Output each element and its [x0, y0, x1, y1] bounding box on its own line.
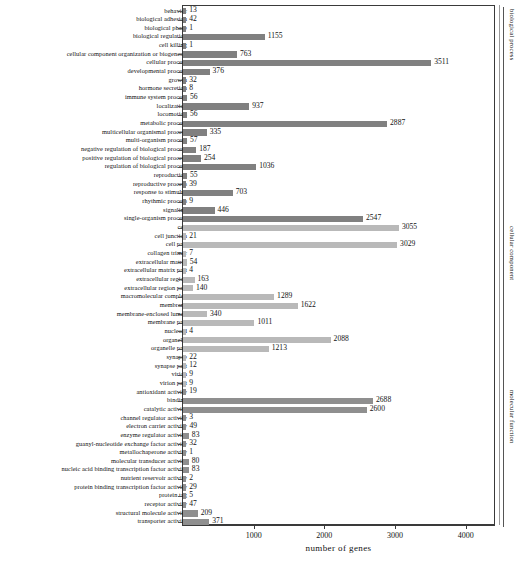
bar-value-label: 1 [189, 447, 193, 456]
bar-value-label: 83 [192, 430, 200, 439]
y-axis-tick [178, 54, 182, 55]
y-axis-tick [178, 453, 182, 454]
y-axis-tick [178, 46, 182, 47]
bar-value-label: 4 [189, 326, 193, 335]
bar-category-label: response to stimulus [7, 187, 187, 196]
bar-category-label: metallochaperone activity [7, 447, 187, 456]
bar-value-label: 1011 [257, 317, 272, 326]
bar-value-label: 55 [190, 170, 198, 179]
bar-category-label: extracellular region part [7, 283, 187, 292]
bar-value-label: 1 [189, 23, 193, 32]
bar-value-label: 187 [199, 144, 210, 153]
bar-value-label: 340 [210, 309, 221, 318]
bar-category-label: extracellular region [7, 274, 187, 283]
bar-category-label: transporter activity [7, 516, 187, 525]
y-axis-tick [178, 28, 182, 29]
bar-value-label: 1213 [272, 343, 287, 352]
group-label: molecular function [509, 390, 516, 525]
bar-category-label: virion [7, 369, 187, 378]
bar-category-label: cell part [7, 239, 187, 248]
y-axis-tick [178, 176, 182, 177]
bar-category-label: cellular component organization or bioge… [7, 49, 187, 58]
y-axis-tick [178, 323, 182, 324]
bar-category-label: extracellular matrix part [7, 265, 187, 274]
x-axis-tick-label: 1000 [246, 531, 262, 541]
x-axis-line [182, 525, 495, 526]
x-axis-tick-label: 3000 [387, 531, 403, 541]
y-axis-tick [178, 63, 182, 64]
x-axis-tick-label: 2000 [316, 531, 332, 541]
bar-category-label: locomotion [7, 109, 187, 118]
bar [183, 51, 237, 57]
bar-value-label: 1289 [277, 291, 292, 300]
y-axis-tick [178, 288, 182, 289]
bar-category-label: cell junction [7, 231, 187, 240]
bar-category-label: protein tag [7, 490, 187, 499]
y-axis-tick [178, 305, 182, 306]
bar-category-label: cellular process [7, 57, 187, 66]
bar-value-label: 763 [240, 49, 251, 58]
bar-value-label: 3055 [402, 222, 417, 231]
bar [183, 34, 265, 40]
bar-value-label: 56 [190, 92, 198, 101]
bar-category-label: synapse part [7, 361, 187, 370]
y-axis-tick [178, 184, 182, 185]
bar-category-label: membrane [7, 300, 187, 309]
bar-value-label: 9 [189, 378, 193, 387]
bar-value-label: 12 [189, 360, 197, 369]
bar [183, 242, 397, 248]
bar-value-label: 9 [189, 196, 193, 205]
y-axis-tick [178, 513, 182, 514]
y-axis-tick [178, 366, 182, 367]
bar-category-label: virion part [7, 378, 187, 387]
bar-value-label: 3511 [434, 57, 449, 66]
y-axis-tick [178, 279, 182, 280]
bar-category-label: macromolecular complex [7, 291, 187, 300]
y-axis-tick [178, 383, 182, 384]
bar-category-label: receptor activity [7, 499, 187, 508]
y-axis-tick [178, 479, 182, 480]
bar-value-label: 56 [190, 109, 198, 118]
bar-category-label: membrane part [7, 317, 187, 326]
bar-value-label: 371 [212, 516, 223, 525]
y-axis-tick [178, 340, 182, 341]
bar-category-label: rhythmic process [7, 196, 187, 205]
bar-value-label: 2600 [370, 404, 385, 413]
y-axis-tick [178, 505, 182, 506]
bar-category-label: single-organism process [7, 213, 187, 222]
bar-value-label: 937 [252, 101, 263, 110]
bar-value-label: 2088 [334, 334, 349, 343]
bar-value-label: 32 [189, 75, 197, 84]
y-axis-tick [178, 496, 182, 497]
bar-value-label: 2887 [390, 118, 405, 127]
y-axis-tick [178, 375, 182, 376]
bar [183, 407, 367, 413]
bar-value-label: 19 [189, 386, 197, 395]
bar-category-label: hormone secretion [7, 83, 187, 92]
bar-value-label: 32 [189, 438, 197, 447]
y-axis-tick [178, 236, 182, 237]
bar-category-label: localization [7, 101, 187, 110]
bar-category-label: nucleoid [7, 326, 187, 335]
y-axis-tick [178, 37, 182, 38]
bar [183, 216, 363, 222]
group-label: biological process [509, 9, 516, 222]
bar-category-label: cell [7, 222, 187, 231]
bar-value-label: 335 [210, 127, 221, 136]
bar [183, 320, 254, 326]
y-axis-tick [178, 444, 182, 445]
group-bracket-line [503, 224, 504, 389]
bar-category-label: molecular transducer activity [7, 456, 187, 465]
y-axis-tick [178, 487, 182, 488]
bar [183, 398, 373, 404]
bar-category-label: multicellular organismal process [7, 127, 187, 136]
y-axis-tick [178, 132, 182, 133]
bar-category-label: biological phase [7, 23, 187, 32]
bar [183, 294, 274, 300]
x-axis-title: number of genes [182, 543, 495, 553]
bar-category-label: binding [7, 395, 187, 404]
bar-category-label: developmental process [7, 66, 187, 75]
bar-value-label: 21 [189, 231, 197, 240]
bar-value-label: 446 [218, 205, 229, 214]
y-axis-tick [178, 271, 182, 272]
